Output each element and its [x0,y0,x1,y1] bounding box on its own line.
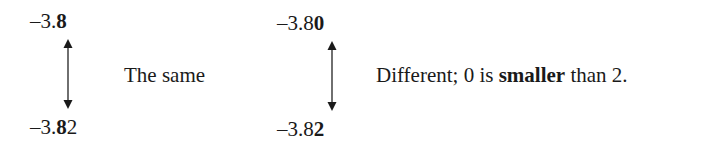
number-bold-digit: 0 [314,11,325,35]
number-prefix: –3.8 [277,11,314,35]
number-prefix: –3. [30,9,56,33]
number-suffix: 2 [67,115,78,139]
example-2-label: Different; 0 is smaller than 2. [376,63,628,87]
example-2-top-number: –3.80 [277,11,324,35]
number-bold-digit: 8 [56,115,67,139]
number-prefix: –3. [30,115,56,139]
label-text: Different; 0 is [376,63,499,87]
example-2-bottom-number: –3.82 [277,117,324,141]
double-arrow-icon [61,38,75,110]
example-1-bottom-number: –3.82 [30,115,77,139]
example-1-top-number: –3.8 [30,9,67,33]
double-arrow-icon [325,40,339,112]
number-prefix: –3.8 [277,117,314,141]
example-1-label: The same [124,63,205,87]
label-bold-word: smaller [499,63,565,87]
number-bold-digit: 8 [56,9,67,33]
label-text: than 2. [565,63,627,87]
number-bold-digit: 2 [314,117,325,141]
